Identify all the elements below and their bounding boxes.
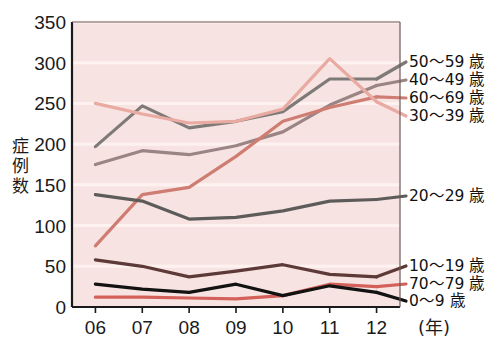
y-tick-label-200: 200 xyxy=(34,134,66,155)
x-tick-label-08: 08 xyxy=(179,317,200,338)
legend-label-20-29: 20～29 歳 xyxy=(409,187,485,205)
chart-container: 050100150200250300350 06070809101112 症 例… xyxy=(0,0,502,342)
legend-label-10-19: 10～19 歳 xyxy=(409,257,485,275)
legend-label-30-39: 30～39 歳 xyxy=(409,107,485,125)
line-chart: 050100150200250300350 06070809101112 症 例… xyxy=(0,0,502,342)
x-tick-label-09: 09 xyxy=(225,317,246,338)
y-tick-label-100: 100 xyxy=(34,216,66,237)
y-tick-label-250: 250 xyxy=(34,93,66,114)
legend-label-70-79: 70～79 歳 xyxy=(409,275,485,293)
y-tick-label-50: 50 xyxy=(45,256,66,277)
legend-label-60-69: 60～69 歳 xyxy=(409,89,485,107)
x-axis-tick-labels: 06070809101112 xyxy=(85,317,387,338)
legend-label-0-9: 0～9 歳 xyxy=(409,292,466,310)
y-tick-label-150: 150 xyxy=(34,175,66,196)
x-axis-unit-label: (年) xyxy=(418,317,450,338)
y-axis-title-char-2: 例 xyxy=(12,156,29,176)
legend-label-40-49: 40～49 歳 xyxy=(409,71,485,89)
y-tick-label-0: 0 xyxy=(55,297,66,318)
y-axis-title-char-1: 症 xyxy=(12,136,29,156)
y-tick-label-300: 300 xyxy=(34,53,66,74)
x-tick-label-12: 12 xyxy=(366,317,387,338)
x-tick-label-11: 11 xyxy=(320,317,340,338)
x-tick-label-06: 06 xyxy=(85,317,106,338)
y-tick-label-350: 350 xyxy=(34,12,66,33)
x-tick-label-07: 07 xyxy=(132,317,153,338)
y-axis-title-char-3: 数 xyxy=(12,176,29,196)
legend-connector-2 xyxy=(377,97,406,98)
y-axis-tick-labels: 050100150200250300350 xyxy=(34,12,66,318)
legend-label-50-59: 50～59 歳 xyxy=(409,53,485,71)
x-tick-label-10: 10 xyxy=(272,317,293,338)
